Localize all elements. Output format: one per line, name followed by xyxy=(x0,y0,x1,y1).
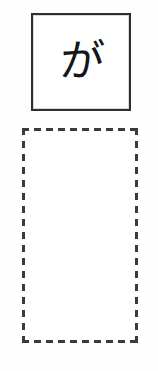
character-cell: が xyxy=(31,13,131,111)
kana-glyph: が xyxy=(58,39,105,83)
kana-worksheet: が xyxy=(0,0,158,371)
dashed-border-bottom xyxy=(22,340,138,343)
dashed-border-left xyxy=(22,128,25,343)
practice-writing-cell[interactable] xyxy=(22,128,138,343)
dashed-border-top xyxy=(22,128,138,131)
dashed-border-right xyxy=(135,128,138,343)
